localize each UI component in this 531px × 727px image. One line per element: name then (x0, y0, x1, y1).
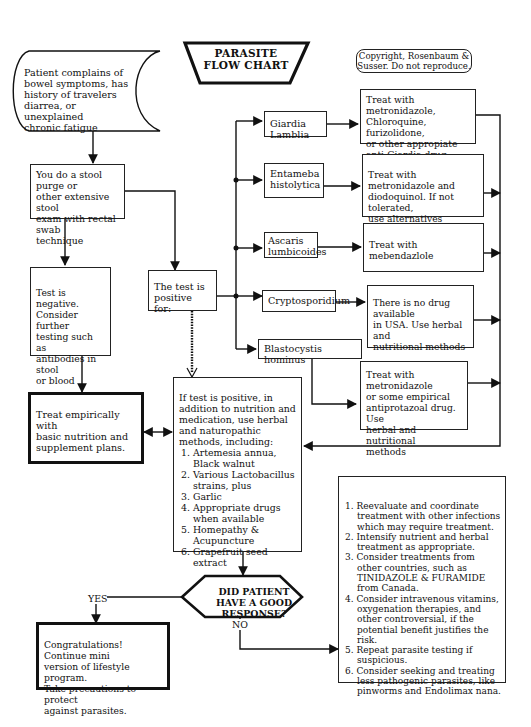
yes-outcome-node: Congratulations! Continue mini version o… (36, 622, 170, 690)
chart-title: PARASITE FLOW CHART (196, 47, 296, 71)
no-outcome-item: 4. Consider intravenous vitamins, oxygen… (343, 594, 501, 645)
plan-item: 5. Homepathy & Acupuncture (179, 524, 296, 546)
decision-node: DID PATIENT HAVE A GOOD RESPONSE? (204, 586, 304, 619)
no-outcome-item: 5. Repeat parasite testing if suspicious… (343, 645, 501, 666)
treatment-entameba: Treat with metronidazole and diodoquinol… (362, 154, 484, 217)
positive-plan-list: 1. Artemesia annua, Black walnut 2. Vari… (179, 447, 296, 568)
plan-item: 6. Grapefruit seed extract (179, 546, 296, 568)
plan-item: 2. Various Lactobacillus strains, plus (179, 469, 296, 491)
treatment-giardia: Treat with metronidazole, Chloroquine, f… (360, 89, 476, 144)
no-label: NO (232, 619, 248, 630)
stool-exam-node: You do a stool purge or other extensive … (30, 164, 125, 219)
parasite-entameba-histolytica: Entameba histolytica (264, 163, 324, 198)
test-positive-node: The test is positive for: (148, 270, 217, 311)
title-line-2: FLOW CHART (196, 59, 296, 71)
parasite-blastocystis-hominus: Blastocystis hominus (258, 339, 362, 359)
positive-plan-intro: If test is positive, in addition to nutr… (179, 392, 296, 447)
plan-item: 3. Garlic (179, 491, 296, 502)
parasite-giardia-lamblia: Giardia Lamblia (264, 111, 327, 137)
start-node: Patient complains of bowel symptoms, has… (24, 67, 134, 133)
parasite-ascaris-lumbicoides: Ascaris lumbicoides (264, 232, 318, 258)
treatment-cryptosporidium: There is no drug available in USA. Use h… (367, 285, 474, 348)
positive-plan-node: If test is positive, in addition to nutr… (173, 377, 302, 552)
plan-item: 4. Appropriate drugs when available (179, 502, 296, 524)
yes-label: YES (88, 593, 107, 604)
plan-item: 1. Artemesia annua, Black walnut (179, 447, 296, 469)
no-outcome-node: 1. Reevaluate and coordinate treatment w… (338, 476, 506, 683)
treatment-ascaris: Treat with mebendazlole (363, 223, 484, 272)
title-line-1: PARASITE (196, 47, 296, 59)
no-outcome-item: 6. Consider seeking and treating less pa… (343, 666, 501, 697)
no-outcome-list: 1. Reevaluate and coordinate treatment w… (343, 501, 501, 697)
treatment-blastocystis: Treat with metronidazole or some empiric… (360, 361, 468, 430)
copyright-notice: Copyright, Rosenbaum & Susser. Do not re… (356, 49, 472, 73)
no-outcome-item: 2. Intensify nutrient and herbal treatme… (343, 532, 501, 553)
parasite-cryptosporidium: Cryptosporidium (262, 290, 336, 312)
treat-empirically-node: Treat empirically with basic nutrition a… (28, 392, 144, 464)
no-outcome-item: 3. Consider treatments from other countr… (343, 552, 501, 593)
test-negative-node: Test is negative. Consider further testi… (30, 267, 111, 356)
no-outcome-item: 1. Reevaluate and coordinate treatment w… (343, 501, 501, 532)
